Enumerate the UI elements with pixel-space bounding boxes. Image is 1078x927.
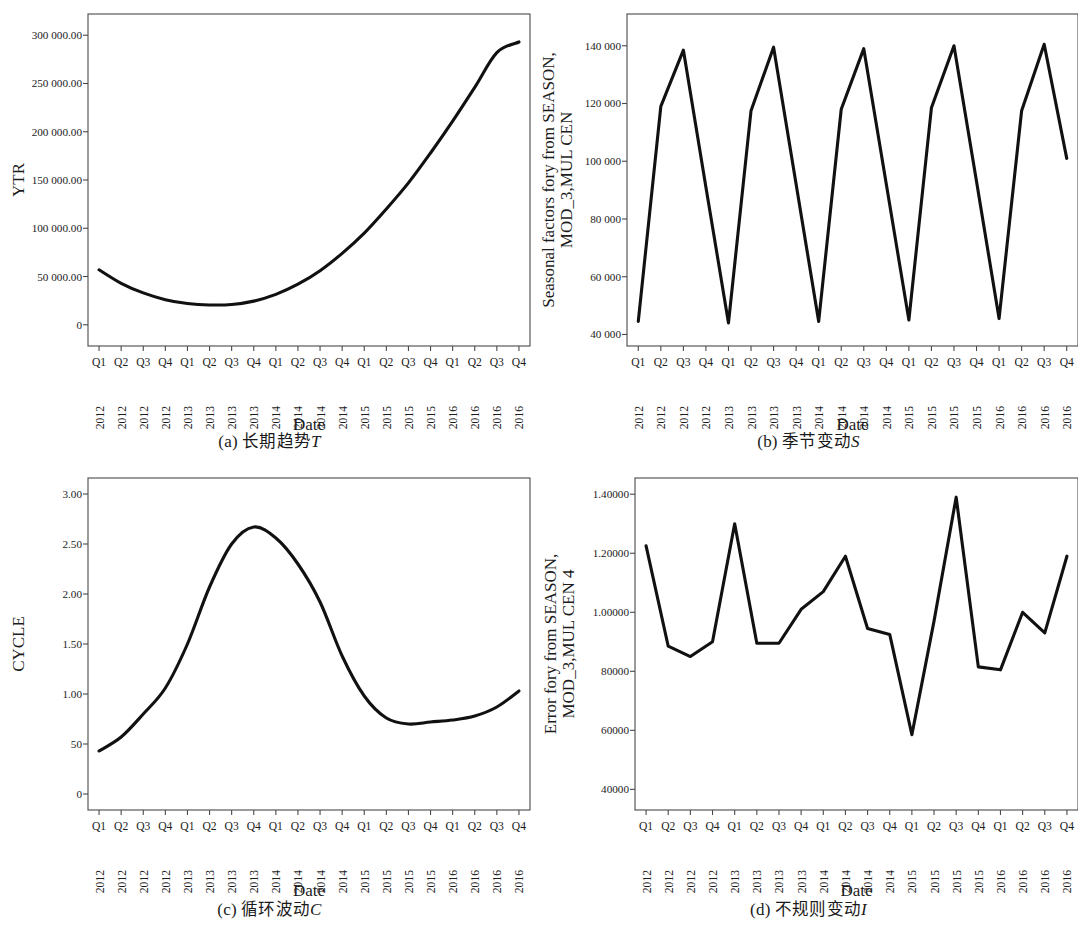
chart-c-x-tick-year: 2012 bbox=[160, 870, 173, 893]
chart-a-x-tick-quarter: Q3 bbox=[401, 356, 415, 369]
chart-a-x-tick-quarter: Q1 bbox=[357, 356, 371, 369]
chart-d-x-tick-year: 2016 bbox=[1017, 870, 1030, 893]
chart-b-x-tick-quarter: Q2 bbox=[924, 356, 938, 369]
chart-a-x-tick-year: 2012 bbox=[160, 406, 173, 429]
chart-c-x-tick-year: 2016 bbox=[447, 870, 460, 893]
panel-c-caption-symbol: C bbox=[310, 900, 322, 919]
chart-b-x-tick-quarter: Q4 bbox=[1060, 356, 1074, 369]
chart-c-y-tick-labels: 3.002.502.001.501.00500 bbox=[62, 488, 82, 800]
chart-c-x-tick-year: 2013 bbox=[204, 870, 217, 893]
chart-c-y-axis-title: CYCLE bbox=[9, 616, 28, 672]
chart-b-x-tick-quarter: Q3 bbox=[857, 356, 871, 369]
chart-d-x-tick-year: 2016 bbox=[1039, 870, 1052, 893]
chart-d-x-tick-year: 2014 bbox=[884, 870, 897, 893]
chart-d-x-tick-quarter: Q3 bbox=[772, 820, 786, 833]
chart-a-y-tick-label: 0 bbox=[76, 319, 82, 331]
chart-a-x-tick-quarter: Q1 bbox=[269, 356, 283, 369]
chart-a-x-tick-year: 2016 bbox=[447, 406, 460, 429]
chart-b-x-tick-year: 2013 bbox=[723, 406, 736, 429]
chart-b-x-tick-quarter: Q3 bbox=[766, 356, 780, 369]
panel-c-caption: (c) 循环波动C bbox=[0, 896, 539, 920]
chart-d-x-tick-quarter: Q2 bbox=[838, 820, 852, 833]
chart-a-data-line bbox=[99, 42, 519, 305]
chart-b-x-tick-quarter: Q2 bbox=[654, 356, 668, 369]
chart-c-x-tick-quarter: Q1 bbox=[92, 820, 106, 833]
chart-b-x-tick-year: 2012 bbox=[678, 406, 691, 429]
chart-b-x-tick-quarter: Q1 bbox=[902, 356, 916, 369]
panel-c-caption-index: (c) bbox=[217, 900, 236, 919]
chart-c-x-tick-quarter: Q2 bbox=[468, 820, 482, 833]
chart-a-x-tick-year: 2015 bbox=[403, 406, 416, 429]
chart-d-y-axis-title: Error fory from SEASON,MOD_3,MUL CEN 4 bbox=[541, 554, 578, 734]
chart-b-y-tick-label: 80 000 bbox=[590, 213, 621, 225]
chart-b-x-tick-quarter: Q1 bbox=[812, 356, 826, 369]
chart-c-x-tick-quarter: Q4 bbox=[512, 820, 526, 833]
chart-b-x-tick-year: 2013 bbox=[768, 406, 781, 429]
panel-d-caption-symbol: I bbox=[861, 900, 867, 919]
chart-a-y-tick-labels: 300 000.00250 000.00200 000.00150 000.00… bbox=[32, 29, 83, 331]
chart-c-x-tick-year: 2012 bbox=[94, 870, 107, 893]
chart-b-x-tick-year: 2014 bbox=[881, 406, 894, 429]
chart-d-x-tick-year: 2013 bbox=[796, 870, 809, 893]
chart-b-y-tick-label: 120 000 bbox=[585, 97, 622, 109]
panel-a-caption-text: 长期趋势 bbox=[242, 432, 311, 451]
chart-b-x-tick-year: 2016 bbox=[994, 406, 1007, 429]
chart-c-x-tick-quarter: Q3 bbox=[313, 820, 327, 833]
panel-d-plot: 1.400001.200001.00000800006000040000 Err… bbox=[539, 458, 1078, 927]
chart-d-x-tick-quarter: Q2 bbox=[661, 820, 675, 833]
chart-d-x-tick-quarter: Q4 bbox=[971, 820, 985, 833]
chart-c-x-tick-quarter: Q4 bbox=[423, 820, 437, 833]
chart-a-x-tick-year: 2013 bbox=[204, 406, 217, 429]
chart-d-x-tick-year: 2013 bbox=[751, 870, 764, 893]
chart-b-y-tick-label: 100 000 bbox=[585, 155, 622, 167]
panel-a-trend: 300 000.00250 000.00200 000.00150 000.00… bbox=[0, 0, 539, 458]
chart-a-x-tick-year: 2012 bbox=[138, 406, 151, 429]
chart-b-x-tick-quarter: Q2 bbox=[1015, 356, 1029, 369]
chart-d-x-tick-quarter: Q1 bbox=[993, 820, 1007, 833]
chart-d-x-tick-quarter: Q2 bbox=[927, 820, 941, 833]
chart-d-x-tick-year: 2015 bbox=[951, 870, 964, 893]
chart-b-x-tick-year: 2013 bbox=[746, 406, 759, 429]
chart-c-x-tick-year: 2013 bbox=[182, 870, 195, 893]
chart-c-y-ticks bbox=[83, 494, 88, 794]
chart-a-x-tick-year: 2012 bbox=[116, 406, 129, 429]
chart-c-x-tick-quarter: Q1 bbox=[357, 820, 371, 833]
chart-a-x-tick-quarter: Q2 bbox=[202, 356, 216, 369]
chart-c-x-tick-quarter: Q4 bbox=[247, 820, 261, 833]
chart-c-x-tick-quarter: Q3 bbox=[401, 820, 415, 833]
chart-d-x-tick-year: 2016 bbox=[1061, 870, 1074, 893]
panel-b-caption-symbol: S bbox=[851, 432, 860, 451]
chart-d-x-tick-year: 2013 bbox=[773, 870, 786, 893]
chart-c-x-tick-quarter: Q2 bbox=[114, 820, 128, 833]
chart-b-y-axis-title-line: Seasonal factors fory from SEASON, bbox=[539, 52, 558, 307]
chart-b-x-tick-quarter: Q3 bbox=[947, 356, 961, 369]
chart-b-x-tick-quarter: Q1 bbox=[992, 356, 1006, 369]
chart-c-y-tick-label: 2.00 bbox=[62, 588, 82, 600]
chart-b-y-tick-label: 60 000 bbox=[590, 271, 621, 283]
chart-a-x-tick-quarter: Q2 bbox=[291, 356, 305, 369]
panel-b-plot: 140 000120 000100 00080 00060 00040 000 … bbox=[539, 0, 1078, 458]
chart-c-data-line bbox=[99, 527, 519, 751]
panel-b-caption: (b) 季节变动S bbox=[539, 428, 1078, 452]
chart-b-x-tick-quarter: Q1 bbox=[631, 356, 645, 369]
chart-b-x-tick-year: 2012 bbox=[700, 406, 713, 429]
chart-d-x-tick-quarter: Q1 bbox=[816, 820, 830, 833]
chart-c-x-tick-quarter: Q3 bbox=[136, 820, 150, 833]
chart-a-x-tick-quarter: Q1 bbox=[180, 356, 194, 369]
chart-a-x-tick-quarter: Q1 bbox=[92, 356, 106, 369]
chart-a-y-tick-label: 150 000.00 bbox=[32, 174, 83, 186]
panel-d-caption-text: 不规则变动 bbox=[775, 900, 861, 919]
chart-a-x-tick-year: 2013 bbox=[182, 406, 195, 429]
chart-a-y-ticks bbox=[83, 35, 88, 325]
chart-c-x-tick-quarter: Q4 bbox=[335, 820, 349, 833]
chart-d-x-tick-quarter: Q4 bbox=[1060, 820, 1074, 833]
chart-c-x-tick-year: 2016 bbox=[491, 870, 504, 893]
chart-a-x-tick-quarter: Q4 bbox=[158, 356, 172, 369]
panel-b-caption-text: 季节变动 bbox=[782, 432, 851, 451]
chart-d-y-tick-label: 40000 bbox=[601, 783, 629, 795]
chart-a-y-tick-label: 250 000.00 bbox=[32, 77, 83, 89]
chart-a-x-tick-quarter: Q4 bbox=[247, 356, 261, 369]
chart-a-x-tick-year: 2016 bbox=[491, 406, 504, 429]
chart-a-x-tick-quarter: Q3 bbox=[225, 356, 239, 369]
chart-d-x-tick-quarter: Q3 bbox=[683, 820, 697, 833]
